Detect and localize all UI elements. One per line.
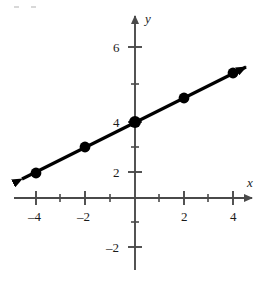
coordinate-plane-figure: –4 –2 2 4 6 4 2 –2 y x bbox=[0, 0, 268, 281]
x-axis-label: x bbox=[247, 176, 253, 189]
y-tick-label-pos2: 2 bbox=[113, 166, 120, 179]
y-tick-label-pos6: 6 bbox=[113, 41, 120, 54]
y-axis bbox=[128, 16, 142, 270]
y-tick-label-pos4: 4 bbox=[113, 116, 120, 129]
data-point bbox=[31, 168, 42, 179]
x-tick-label-neg2: –2 bbox=[77, 210, 90, 223]
x-tick-label-pos4: 4 bbox=[230, 210, 237, 223]
data-point bbox=[129, 116, 141, 128]
y-axis-label: y bbox=[145, 12, 151, 25]
data-point bbox=[228, 68, 239, 79]
y-tick-label-neg2: –2 bbox=[106, 241, 119, 254]
data-point bbox=[179, 93, 190, 104]
data-point bbox=[80, 142, 91, 153]
x-tick-label-pos2: 2 bbox=[181, 210, 188, 223]
plot-canvas bbox=[0, 0, 268, 281]
x-axis bbox=[14, 191, 252, 205]
x-tick-label-neg4: –4 bbox=[28, 210, 41, 223]
